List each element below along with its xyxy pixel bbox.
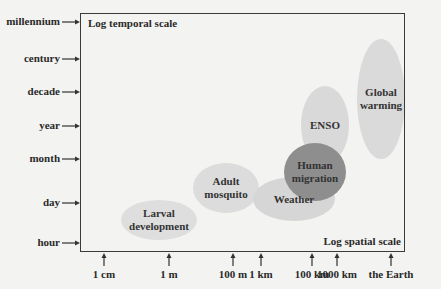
y-tick-label: hour <box>37 236 60 248</box>
arrowhead-icon <box>389 253 394 258</box>
region-label: Weather <box>274 193 314 206</box>
x-tick-label: 1 m <box>160 268 177 280</box>
x-tick-label: 100 m <box>219 268 247 280</box>
scale-diagram: Log temporal scale Log spatial scale mil… <box>0 0 441 289</box>
x-tick-label: 1000 km <box>317 268 357 280</box>
x-tick-label: the Earth <box>369 268 414 280</box>
region-label: ENSO <box>310 119 340 132</box>
arrowhead-icon <box>259 253 264 258</box>
x-tick-label: 1 cm <box>93 268 115 280</box>
x-tick-label: 1 km <box>249 268 273 280</box>
region-label: Larvaldevelopment <box>129 207 189 233</box>
arrowhead-icon <box>167 253 172 258</box>
y-tick-label: decade <box>28 85 60 97</box>
arrowhead-icon <box>102 253 107 258</box>
arrowhead-icon <box>310 253 315 258</box>
y-tick-label: year <box>39 119 60 131</box>
y-axis-title: Log temporal scale <box>88 17 177 29</box>
y-tick-label: century <box>24 52 60 64</box>
x-axis-title: Log spatial scale <box>323 235 401 247</box>
y-tick-label: day <box>43 196 60 208</box>
region-label: Globalwarming <box>360 86 402 112</box>
arrowhead-icon <box>335 253 340 258</box>
region-label: Humanmigration <box>292 159 338 185</box>
y-tick-label: millennium <box>6 15 60 27</box>
arrowhead-icon <box>231 253 236 258</box>
y-tick-label: month <box>29 152 60 164</box>
region-label: Adultmosquito <box>204 175 247 201</box>
